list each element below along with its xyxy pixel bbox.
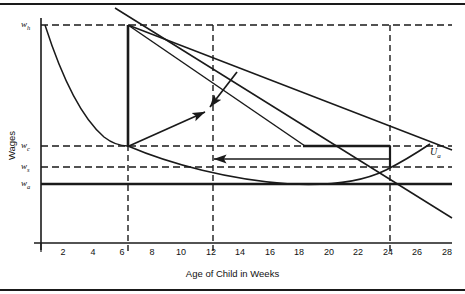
xtick-label-16: 16 <box>262 247 278 257</box>
xtick-label-20: 20 <box>321 247 337 257</box>
xtick-label-2: 2 <box>55 247 71 257</box>
arrow-from-upper-line-down <box>210 72 237 107</box>
xtick-label-18: 18 <box>291 247 307 257</box>
series-reservation-wage-curve <box>45 25 128 146</box>
figure-canvas: wh wc ws wa Ua 2 4 6 8 10 12 14 16 18 20… <box>0 0 465 294</box>
xtick-label-10: 10 <box>173 247 189 257</box>
series-indifference-curve-Ua <box>128 144 430 184</box>
ylabel-wa: wa <box>21 178 30 190</box>
xtick-label-28: 28 <box>439 247 455 257</box>
xtick-label-4: 4 <box>85 247 101 257</box>
xtick-label-8: 8 <box>144 247 160 257</box>
y-axis-title: Wages <box>6 111 17 181</box>
u-curve-label: Ua <box>430 146 441 160</box>
xtick-label-14: 14 <box>232 247 248 257</box>
ylabel-wc: wc <box>21 140 30 152</box>
xtick-label-22: 22 <box>350 247 366 257</box>
series-step-line-to-wc <box>128 25 305 146</box>
xtick-label-12: 12 <box>203 247 219 257</box>
xtick-label-24: 24 <box>380 247 396 257</box>
ylabel-wh: wh <box>21 19 30 31</box>
series-budget-line-from-wh <box>128 25 452 150</box>
ylabel-ws: ws <box>21 161 30 173</box>
xtick-label-26: 26 <box>409 247 425 257</box>
xtick-label-6: 6 <box>114 247 130 257</box>
arrow-from-wc-up-right <box>129 112 205 146</box>
x-axis-title: Age of Child in Weeks <box>0 268 465 279</box>
